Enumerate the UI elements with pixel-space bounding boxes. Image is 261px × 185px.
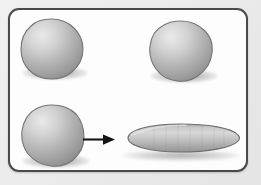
transform-arrow xyxy=(82,130,118,154)
sphere-top-right-body xyxy=(148,20,214,83)
sphere-bottom-left-body xyxy=(20,104,86,168)
figure-frame xyxy=(8,8,248,172)
figure-canvas xyxy=(0,0,261,185)
sphere-top-left-body xyxy=(20,18,84,80)
